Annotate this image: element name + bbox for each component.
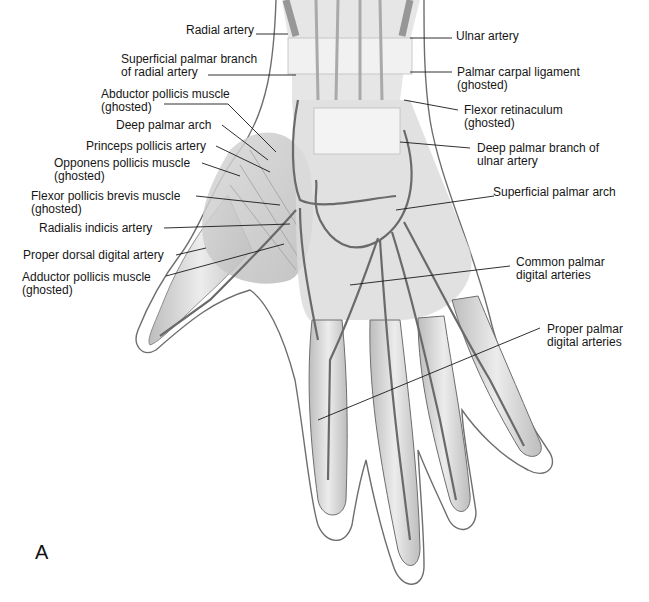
label-text: Ulnar artery — [456, 29, 519, 43]
panel-letter: A — [35, 541, 48, 564]
label-text: (ghosted) — [101, 101, 230, 114]
label-princeps-pollicis-artery: Princeps pollicis artery — [86, 140, 206, 153]
label-text: of radial artery — [121, 66, 257, 79]
hand-artery-figure: Radial artery Superficial palmar branch … — [0, 0, 649, 602]
label-proper-palmar-digital-arteries: Proper palmar digital arteries — [547, 323, 623, 349]
label-text: (ghosted) — [31, 203, 180, 216]
label-ulnar-artery: Ulnar artery — [456, 30, 519, 43]
label-deep-palmar-arch: Deep palmar arch — [116, 119, 211, 132]
label-proper-dorsal-digital-artery: Proper dorsal digital artery — [23, 249, 164, 262]
label-abductor-pollicis-muscle: Abductor pollicis muscle (ghosted) — [101, 88, 230, 114]
palm — [292, 100, 472, 320]
label-text: Superficial palmar arch — [493, 185, 616, 199]
label-text: Radialis indicis artery — [39, 221, 152, 235]
label-text: ulnar artery — [477, 155, 599, 168]
little-finger — [452, 296, 541, 456]
fingers — [309, 296, 541, 566]
label-flexor-retinaculum: Flexor retinaculum (ghosted) — [464, 104, 563, 130]
label-common-palmar-digital-arteries: Common palmar digital arteries — [516, 256, 605, 282]
label-text: Princeps pollicis artery — [86, 139, 206, 153]
label-adductor-pollicis-muscle: Adductor pollicis muscle (ghosted) — [22, 271, 151, 297]
label-superficial-palmar-arch: Superficial palmar arch — [493, 186, 616, 199]
label-text: (ghosted) — [464, 117, 563, 130]
wrist — [282, 0, 420, 100]
middle-finger — [370, 320, 420, 566]
label-deep-palmar-branch-ulnar: Deep palmar branch of ulnar artery — [477, 142, 599, 168]
label-palmar-carpal-ligament: Palmar carpal ligament (ghosted) — [457, 66, 580, 92]
label-radial-artery: Radial artery — [176, 24, 254, 37]
label-radialis-indicis-artery: Radialis indicis artery — [39, 222, 152, 235]
label-text: (ghosted) — [457, 79, 580, 92]
label-text: Proper dorsal digital artery — [23, 248, 164, 262]
label-text: digital arteries — [516, 269, 605, 282]
label-flexor-pollicis-brevis-muscle: Flexor pollicis brevis muscle (ghosted) — [31, 190, 180, 216]
label-text: Radial artery — [186, 23, 254, 37]
label-text: (ghosted) — [22, 284, 151, 297]
label-superficial-palmar-branch-radial: Superficial palmar branch of radial arte… — [121, 53, 257, 79]
label-text: Deep palmar arch — [116, 118, 211, 132]
label-text: (ghosted) — [54, 170, 190, 183]
label-text: digital arteries — [547, 336, 623, 349]
label-opponens-pollicis-muscle: Opponens pollicis muscle (ghosted) — [54, 157, 190, 183]
